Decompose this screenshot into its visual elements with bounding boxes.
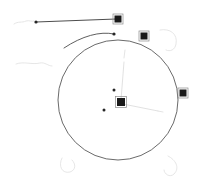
canvas-svg[interactable] — [0, 0, 205, 196]
drawing-canvas[interactable] — [0, 0, 205, 196]
guide-center-to-top — [121, 62, 124, 100]
construction-guide-layer — [121, 50, 163, 112]
handle-top[interactable] — [115, 16, 122, 23]
faint-mark-left-middle — [16, 63, 52, 66]
inner-arc-path[interactable] — [64, 33, 114, 48]
faint-corner-bottom-right — [164, 156, 177, 176]
point-marker-layer[interactable] — [34, 20, 115, 111]
top-horizontal-line[interactable] — [36, 19, 116, 22]
handle-upper-right[interactable] — [141, 33, 148, 40]
point-upper-inner[interactable] — [113, 89, 116, 92]
faint-corner-top-right — [160, 30, 176, 51]
faint-mark-left-upper — [14, 21, 34, 24]
handle-center[interactable] — [117, 98, 125, 106]
guide-right-tick — [158, 111, 163, 112]
point-lower-left[interactable] — [103, 109, 106, 112]
faint-corner-bottom-left — [60, 158, 74, 172]
point-line-left-end[interactable] — [34, 20, 37, 23]
point-arc-end[interactable] — [112, 32, 115, 35]
selection-handle-layer[interactable] — [113, 14, 188, 108]
guide-top-vertical-tick — [124, 50, 125, 58]
handle-right[interactable] — [180, 90, 187, 97]
shape-layer[interactable] — [36, 19, 178, 160]
guide-center-to-right — [123, 104, 158, 111]
